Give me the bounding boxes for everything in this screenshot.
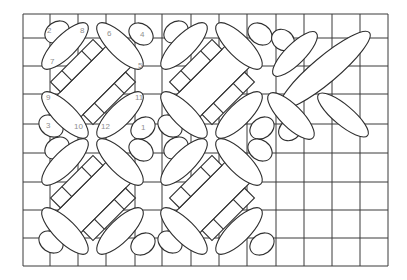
stitch-order-label: 10 xyxy=(74,122,83,131)
stitch-order-label: 6 xyxy=(107,29,112,38)
stitch-order-label: 11 xyxy=(135,93,144,102)
stitch-order-label: 5 xyxy=(138,61,143,70)
stitch-diagram: 286475911310121 xyxy=(0,0,407,280)
long-oval-stitch xyxy=(312,87,374,143)
stitch-order-label: 12 xyxy=(101,122,110,131)
motif-bottom-left xyxy=(35,132,160,260)
motif-top-center xyxy=(154,16,279,144)
stitch-order-label: 1 xyxy=(141,123,146,132)
stitch-order-label: 2 xyxy=(47,26,52,35)
stitch-order-label: 4 xyxy=(140,30,145,39)
stitch-order-label: 7 xyxy=(50,57,55,66)
motifs xyxy=(35,16,279,260)
stitch-order-label: 9 xyxy=(46,93,51,102)
motif-bottom-center xyxy=(154,132,279,260)
stitch-order-label: 3 xyxy=(46,121,51,130)
stitch-order-label: 8 xyxy=(80,26,85,35)
